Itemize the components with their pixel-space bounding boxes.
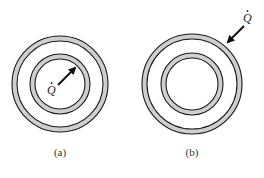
caption-b: (b) — [172, 146, 212, 158]
heat-label-b: Q — [243, 11, 252, 25]
figure-a: Q — [12, 36, 108, 132]
inner-shell-b — [161, 53, 223, 115]
heat-label-a: Q — [47, 83, 56, 97]
heat-label-dot-b — [247, 10, 249, 12]
heat-flow-arrow-b — [228, 26, 244, 42]
caption-a: (a) — [40, 146, 80, 158]
heat-label-dot-a — [51, 82, 53, 84]
heat-flow-arrow-a — [58, 68, 75, 85]
figure-b: Q — [142, 10, 252, 134]
outer-shell-b — [142, 34, 242, 134]
